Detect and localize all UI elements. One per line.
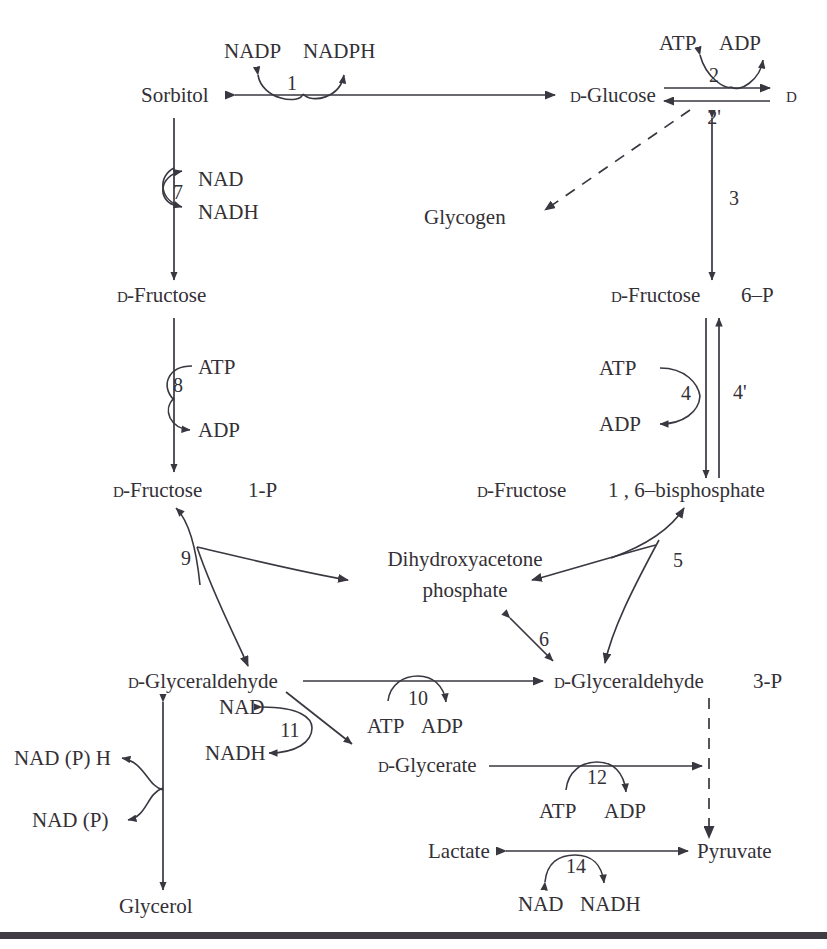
metabolite-pyruvate: Pyruvate: [697, 839, 772, 863]
metabolite-dhap-line2: phosphate: [422, 578, 507, 602]
cofactor-atp-r10: ATP: [367, 714, 404, 738]
metabolite-sorbitol: Sorbitol: [141, 83, 209, 107]
reaction-number-14: 14: [566, 855, 586, 877]
reaction-number-7: 7: [173, 181, 183, 203]
curve-adp-out-r2: [731, 60, 763, 88]
metabolite-d-fructose-group: D -Fructose: [117, 283, 206, 307]
reaction-3-group: 3: [712, 118, 739, 280]
curve-adp-out-r8: [168, 398, 190, 430]
metabolite-d-fructose-1p-name: -Fructose: [123, 478, 202, 502]
reaction-number-8: 8: [173, 374, 183, 396]
reaction-8-group: ATP ADP 8: [167, 318, 240, 472]
metabolite-glycerol: Glycerol: [119, 894, 193, 918]
reaction-number-10: 10: [408, 687, 428, 709]
bottom-divider-rule: [0, 932, 827, 939]
reaction-4-group: ATP ADP 4 4': [599, 318, 747, 478]
reaction-11-group: NAD NADH 11: [205, 692, 352, 765]
pathway-diagram: NADP NADPH 1 Sorbitol D -Glucose ATP ADP…: [0, 0, 827, 949]
curve-nadph-out-glycerol: [122, 758, 163, 790]
reaction-number-3: 3: [729, 187, 739, 209]
metabolite-d-fructose-16bp-group: D -Fructose 1 , 6–bisphosphate: [477, 478, 765, 502]
cofactor-adp-r12: ADP: [604, 799, 646, 823]
cofactor-adp-r8: ADP: [198, 418, 240, 442]
metabolite-d-glyceraldehyde: -Glyceraldehyde: [138, 669, 278, 693]
metabolite-d-fructose-1p-suffix: 1-P: [248, 478, 277, 502]
curve-r5-to-dhap: [532, 545, 656, 580]
cofactor-nadph-glycerol: NAD (P) H: [14, 746, 111, 770]
reaction-number-12: 12: [587, 766, 607, 788]
cofactor-atp-r2: ATP: [659, 31, 696, 55]
metabolite-lactate: Lactate: [428, 839, 490, 863]
cofactor-atp-r4: ATP: [599, 356, 636, 380]
metabolite-d-glyceraldehyde-3p-suffix: 3-P: [753, 669, 782, 693]
cofactor-adp-r4: ADP: [599, 412, 641, 436]
metabolite-d-glyceraldehyde-3p-group: D -Glyceraldehyde 3-P: [554, 669, 782, 693]
reaction-number-11: 11: [280, 719, 299, 741]
metabolite-d-fructose: -Fructose: [127, 283, 206, 307]
reaction-number-2-prime: 2': [707, 106, 721, 128]
curve-r9-to-glyceraldehyde: [197, 547, 248, 666]
metabolite-dhap-group: Dihydroxyacetone phosphate: [387, 547, 542, 602]
reaction-number-6: 6: [539, 628, 549, 650]
glycerol-branch-group: NAD (P) H NAD (P) Glycerol: [14, 702, 193, 918]
cofactor-nadh-r14: NADH: [580, 892, 641, 916]
smallcap-d-glucose-6p: D: [786, 89, 797, 105]
curve-r9-to-dhap: [197, 547, 348, 580]
cofactor-nad-r14: NAD: [518, 892, 564, 916]
metabolite-d-glucose: -Glucose: [580, 83, 656, 107]
metabolite-d-glycerate: -Glycerate: [388, 753, 477, 777]
cofactor-atp-r8: ATP: [198, 355, 235, 379]
metabolite-d-fructose-16bp-suffix: 1 , 6–bisphosphate: [608, 478, 765, 502]
reaction-1-group: NADP NADPH 1: [224, 39, 555, 100]
metabolite-d-fructose-6p-suffix: 6–P: [741, 283, 774, 307]
reaction-7-group: NAD NADH 7: [163, 118, 259, 280]
metabolite-d-fructose-6p-group: D -Fructose 6–P: [611, 283, 774, 307]
metabolite-d-fructose-1p-group: D -Fructose 1-P: [113, 478, 277, 502]
cofactor-nadh-r11: NADH: [205, 741, 266, 765]
reaction-10-group: 10 ATP ADP: [303, 676, 543, 738]
metabolite-d-glyceraldehyde-3p-name: -Glyceraldehyde: [564, 669, 704, 693]
cofactor-adp-r10: ADP: [421, 714, 463, 738]
cofactor-nadh-r7: NADH: [198, 200, 259, 224]
metabolite-d-glucose-group: D -Glucose: [570, 83, 656, 107]
glycogen-link-group: Glycogen: [424, 110, 690, 229]
cofactor-nadp-glycerol: NAD (P): [32, 808, 108, 832]
metabolite-d-glyceraldehyde-group: D -Glyceraldehyde: [128, 669, 278, 693]
reaction-2-group: ATP ADP 2 2': [659, 31, 770, 128]
metabolite-d-fructose-16bp-name: -Fructose: [487, 478, 566, 502]
metabolite-dhap-line1: Dihydroxyacetone: [387, 547, 542, 571]
reaction-number-4: 4: [681, 382, 691, 404]
metabolite-d-glucose-6p-group: D D-Glucose: [786, 89, 797, 105]
metabolite-glycogen: Glycogen: [424, 205, 506, 229]
reaction-12-group: 12 ATP ADP: [489, 762, 702, 823]
cofactor-nad-r7: NAD: [198, 167, 244, 191]
reaction-number-4-prime: 4': [733, 381, 747, 403]
reaction-5-group: 5: [532, 508, 684, 663]
reaction-number-5: 5: [673, 549, 683, 571]
cofactor-nad-r11: NAD: [219, 695, 265, 719]
reaction-6-group: 6: [510, 618, 553, 661]
cofactor-nadph-r1: NADPH: [303, 39, 375, 63]
cofactor-nadp-r1: NADP: [224, 39, 281, 63]
reaction-9-group: 9: [176, 508, 348, 666]
reaction-number-2: 2: [709, 64, 719, 86]
curve-r5-to-g3p: [605, 540, 659, 663]
cofactor-adp-r2: ADP: [719, 31, 761, 55]
reaction-14-group: 14 NAD NADH: [506, 851, 688, 916]
cofactor-atp-r12: ATP: [539, 799, 576, 823]
curve-adp-out-r4: [660, 396, 700, 424]
curve-atp-in-r4: [660, 368, 700, 396]
dashed-arrow-g6p-to-glycogen: [545, 110, 690, 210]
metabolite-d-fructose-6p-name: -Fructose: [621, 283, 700, 307]
reaction-number-1: 1: [287, 72, 297, 94]
figure-page: NADP NADPH 1 Sorbitol D -Glucose ATP ADP…: [0, 0, 827, 949]
metabolite-d-glycerate-group: D -Glycerate: [378, 753, 477, 777]
curve-nadp-out-glycerol: [128, 788, 163, 820]
reaction-number-9: 9: [181, 547, 191, 569]
